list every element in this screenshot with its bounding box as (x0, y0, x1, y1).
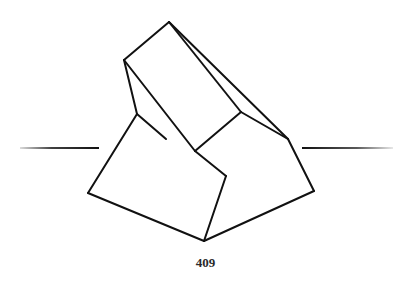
figure-edge (88, 114, 137, 193)
figure-edges (88, 22, 314, 241)
figure-edge (288, 139, 314, 191)
figure-edge (124, 22, 169, 60)
figure-edge (88, 193, 204, 241)
left-horizontal-rule (20, 147, 99, 149)
figure-edge (195, 112, 241, 151)
polyhedron-figure (0, 0, 411, 285)
figure-edge (169, 22, 241, 112)
figure-edge (195, 151, 226, 176)
page-number: 409 (0, 255, 411, 271)
figure-edge (204, 176, 226, 241)
figure-edge (204, 191, 314, 241)
right-horizontal-rule (302, 147, 393, 149)
figure-edge (137, 114, 166, 139)
